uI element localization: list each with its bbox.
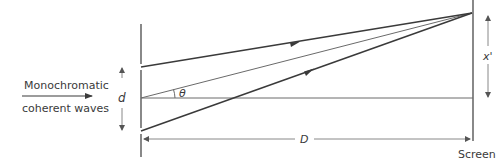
fringe-position-label: x': [482, 50, 493, 63]
slit-separation-label: d: [118, 91, 126, 105]
double-slit-diagram: Monochromatic coherent waves d θ D x' Sc…: [0, 0, 501, 163]
screen-label: Screen: [458, 148, 496, 161]
angle-arc: [174, 90, 176, 99]
lower-ray: [141, 13, 472, 131]
angle-label: θ: [179, 87, 186, 100]
source-label-line1: Monochromatic: [24, 79, 109, 92]
distance-label: D: [300, 133, 308, 146]
angle-reference-line: [141, 13, 472, 98]
lower-ray-arrow-icon: [304, 69, 314, 77]
upper-ray: [141, 13, 472, 67]
upper-ray-arrow-icon: [290, 42, 300, 47]
source-label-line2: coherent waves: [22, 102, 109, 115]
